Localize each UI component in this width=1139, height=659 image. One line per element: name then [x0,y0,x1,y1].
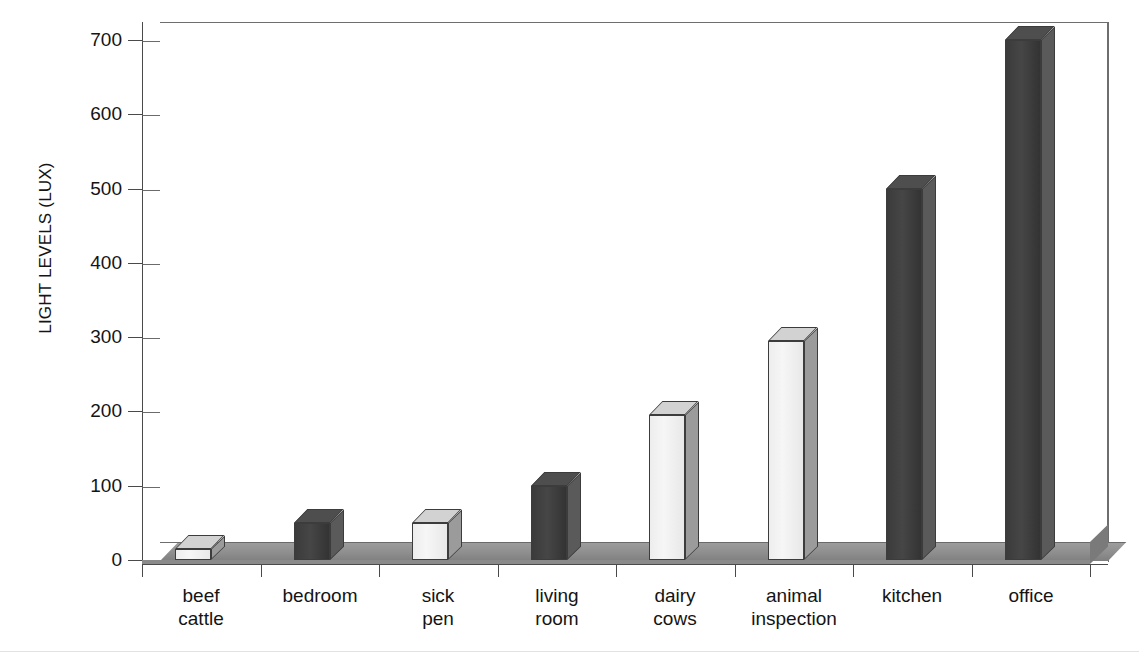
y-axis-title: LIGHT LEVELS (LUX) [36,128,56,368]
y-axis-tick [128,189,142,190]
x-axis-category-label-line: office [951,584,1111,607]
y-axis-tick [128,411,142,412]
x-axis-tick [1090,564,1091,577]
x-axis-tick [735,564,736,577]
bar [649,401,685,560]
y-axis-tick-label: 600 [66,104,122,123]
y-axis-tick [128,560,142,561]
bar-side-face [685,402,699,560]
bar [531,472,567,560]
x-axis-category-label-line: cattle [121,607,281,630]
x-axis-tick [853,564,854,577]
y-axis-spine-front [142,40,143,561]
y-axis-tick-label: 400 [66,253,122,272]
x-axis-tick [972,564,973,577]
x-axis-tick [616,564,617,577]
y-axis-tick-label: 300 [66,327,122,346]
bar [412,509,448,560]
bar-side-face [804,327,818,560]
x-axis-tick [261,564,262,577]
x-axis-tick [379,564,380,577]
bar-front-face [294,523,330,560]
page-edge-rule [0,651,1139,652]
y-axis-tick [128,263,142,264]
y-axis-tick-label: 500 [66,179,122,198]
y-axis-tick-label: 200 [66,401,122,420]
bar-front-face [768,341,804,560]
bar [1005,26,1041,560]
bar-side-face [922,175,936,560]
y-axis-tick [128,337,142,338]
bar-front-face [531,486,567,560]
y-axis-tick [128,40,142,41]
bar-front-face [649,415,685,560]
plot-right-edge [1108,22,1109,562]
bar-front-face [1005,40,1041,560]
plot-back-wall [160,22,1108,543]
x-axis-category-label-line: inspection [714,607,874,630]
x-axis-line [142,564,1108,565]
bar [886,175,922,560]
bar-front-face [175,549,211,560]
bar-front-face [412,523,448,560]
x-axis-tick [142,564,143,577]
y-axis-tick [128,486,142,487]
bar-chart: LIGHT LEVELS (LUX) 010020030040050060070… [0,0,1139,659]
y-axis-tick-labels: 0100200300400500600700 [66,0,122,659]
x-axis-tick [498,564,499,577]
bar-side-face [1041,26,1055,560]
y-axis-tick-label: 100 [66,476,122,495]
bar-side-face [567,472,581,560]
bar [768,327,804,560]
y-axis-tick [128,114,142,115]
y-axis-tick-label: 0 [66,550,122,569]
x-axis-category-label: office [951,584,1111,607]
bar [175,535,211,560]
bar [294,509,330,560]
y-axis-top-cap [142,22,162,41]
bar-front-face [886,189,922,560]
y-axis-tick-label: 700 [66,30,122,49]
